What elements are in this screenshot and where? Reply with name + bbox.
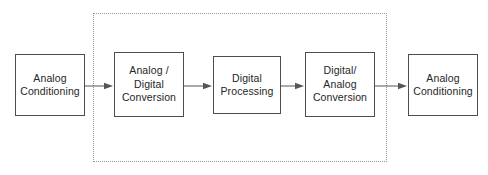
block-digital-processing[interactable]: Digital Processing [213,56,281,114]
block-label: Digital Processing [219,72,276,99]
block-analog-conditioning-output[interactable]: Analog Conditioning [408,54,478,116]
block-analog-digital-conversion[interactable]: Analog / Digital Conversion [114,52,184,117]
arrowhead-icon [398,83,407,89]
block-label: Analog / Digital Conversion [120,64,178,105]
block-label: Analog Conditioning [18,72,82,99]
block-diagram-canvas: Analog Conditioning Analog / Digital Con… [0,0,488,175]
block-label: Analog Conditioning [411,72,475,99]
block-label: Digital/ Analog Conversion [311,64,369,105]
block-digital-analog-conversion[interactable]: Digital/ Analog Conversion [305,52,375,117]
block-analog-conditioning-input[interactable]: Analog Conditioning [15,54,85,116]
